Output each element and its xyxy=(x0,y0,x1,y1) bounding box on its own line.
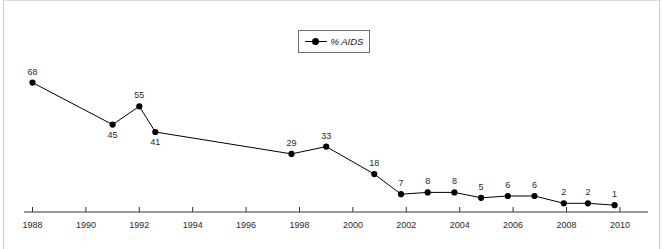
data-point-marker[interactable] xyxy=(478,195,484,201)
legend-line-marker-icon xyxy=(305,37,327,47)
data-point-value-label: 55 xyxy=(134,91,144,100)
data-point-value-label: 18 xyxy=(369,159,379,168)
x-axis-tick-label: 2010 xyxy=(610,221,630,230)
x-axis-tick-label: 2004 xyxy=(450,221,470,230)
data-point-value-label: 5 xyxy=(479,183,484,192)
data-point-value-label: 1 xyxy=(612,190,617,199)
chart-screenshot: 68455541293318788566221 1988199019921994… xyxy=(0,0,663,249)
data-point-value-label: 6 xyxy=(532,181,537,190)
data-point-marker[interactable] xyxy=(585,200,591,206)
data-point-value-label: 7 xyxy=(398,179,403,188)
data-point-marker[interactable] xyxy=(29,80,35,86)
x-axis-tick-label: 1994 xyxy=(183,221,203,230)
x-axis-tick-label: 2000 xyxy=(343,221,363,230)
data-point-value-label: 29 xyxy=(286,139,296,148)
x-axis-tick-label: 1998 xyxy=(289,221,309,230)
data-point-value-label: 6 xyxy=(505,181,510,190)
legend-entry: % AIDS xyxy=(299,31,369,52)
x-axis-tick-label: 2008 xyxy=(556,221,576,230)
legend-entry-label: % AIDS xyxy=(331,37,364,47)
data-point-value-label: 45 xyxy=(108,131,118,140)
series-data-markers xyxy=(29,80,617,209)
data-point-marker[interactable] xyxy=(612,202,618,208)
data-point-marker[interactable] xyxy=(425,189,431,195)
data-point-value-label: 33 xyxy=(321,132,331,141)
data-point-marker[interactable] xyxy=(561,200,567,206)
series-line-path xyxy=(33,83,615,206)
x-axis-group xyxy=(24,207,648,212)
data-point-marker[interactable] xyxy=(110,122,116,128)
x-axis-tick-label: 2002 xyxy=(396,221,416,230)
series-polyline xyxy=(33,83,615,206)
x-axis-tick-label: 2006 xyxy=(503,221,523,230)
x-axis-ticks xyxy=(33,207,620,212)
x-axis-tick-label: 1990 xyxy=(76,221,96,230)
data-point-marker[interactable] xyxy=(152,129,158,135)
data-point-value-label: 68 xyxy=(27,68,37,77)
x-axis-tick-label: 1988 xyxy=(22,221,42,230)
data-point-marker[interactable] xyxy=(136,103,142,109)
data-point-marker[interactable] xyxy=(451,189,457,195)
data-point-marker[interactable] xyxy=(288,151,294,157)
data-point-value-label: 2 xyxy=(585,188,590,197)
data-point-value-label: 41 xyxy=(150,138,160,147)
data-point-marker[interactable] xyxy=(505,193,511,199)
data-point-marker[interactable] xyxy=(531,193,537,199)
data-point-value-label: 2 xyxy=(561,188,566,197)
data-point-value-label: 8 xyxy=(452,177,457,186)
data-point-marker[interactable] xyxy=(398,191,404,197)
x-axis-tick-label: 1992 xyxy=(129,221,149,230)
chart-legend[interactable]: % AIDS xyxy=(298,30,370,53)
data-point-value-label: 8 xyxy=(425,177,430,186)
x-axis-tick-label: 1996 xyxy=(236,221,256,230)
data-point-marker[interactable] xyxy=(323,144,329,150)
data-point-marker[interactable] xyxy=(371,171,377,177)
